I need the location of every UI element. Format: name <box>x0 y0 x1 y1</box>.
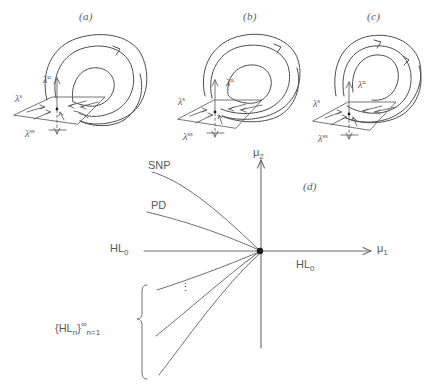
origin-point <box>257 248 263 254</box>
vertical-ellipsis: ⋮ <box>180 286 191 289</box>
hl0-right-sub: 0 <box>310 264 314 273</box>
curve-hln-1 <box>157 252 259 290</box>
hl0-left-text: HL <box>110 242 124 254</box>
curve-pd <box>147 212 259 250</box>
mu1-sub: 1 <box>383 248 387 257</box>
mu2-sub: 2 <box>259 152 263 161</box>
hln-sub-outer: n=1 <box>87 328 101 337</box>
hl0-label-left: HL0 <box>110 242 129 257</box>
curve-hln-2 <box>156 252 259 336</box>
figure-root: (a) (b) (c) (d) <box>0 0 439 390</box>
hln-prefix: {HL <box>55 322 73 334</box>
hl0-label-right: HL0 <box>296 258 315 273</box>
hl0-left-sub: 0 <box>124 248 128 257</box>
hln-family-label: {HLn}∞n=1 <box>55 320 100 337</box>
hln-family-brace <box>137 285 147 379</box>
hl0-right-text: HL <box>296 258 310 270</box>
mu2-axis-label: μ2 <box>253 146 264 161</box>
snp-label: SNP <box>148 159 171 171</box>
mu1-axis <box>261 248 371 255</box>
curve-snp <box>152 172 259 250</box>
mu1-axis-label: μ1 <box>377 242 388 257</box>
pd-label: PD <box>151 199 166 211</box>
